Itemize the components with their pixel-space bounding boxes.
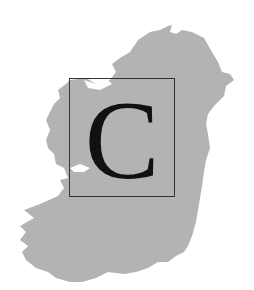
drop-cap-letter: C — [69, 78, 175, 197]
figure: C — [0, 0, 254, 290]
